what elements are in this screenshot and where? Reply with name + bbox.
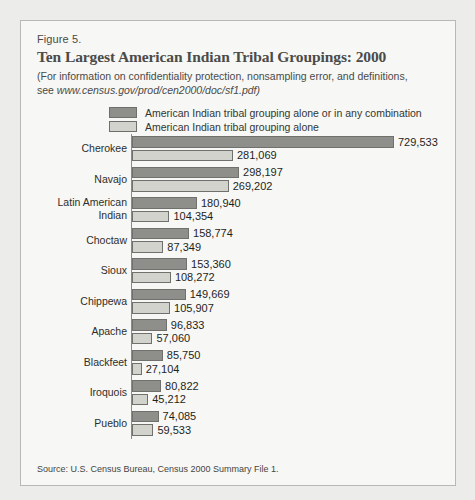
chart-row: Blackfeet85,75027,104 <box>37 348 441 379</box>
row-label-navajo: Navajo <box>31 173 127 186</box>
row-label-line: Navajo <box>94 173 127 185</box>
chart-row: Chippewa149,669105,907 <box>37 287 441 318</box>
bar-group: 80,82245,212 <box>132 380 161 407</box>
row-label-apache: Apache <box>31 325 127 338</box>
bar-group: 153,360108,272 <box>132 258 187 285</box>
bar-combination[interactable]: 180,940 <box>132 197 197 209</box>
bar-group: 180,940104,354 <box>132 197 197 224</box>
bar-value-label: 105,907 <box>174 302 214 314</box>
bar-value-label: 87,349 <box>167 241 201 253</box>
bar-chart: Cherokee729,533281,069Navajo298,197269,2… <box>37 134 441 439</box>
bar-value-label: 96,833 <box>171 319 205 331</box>
chart-legend: American Indian tribal grouping alone or… <box>109 106 422 134</box>
bar-group: 298,197269,202 <box>132 167 239 194</box>
bar-alone[interactable]: 269,202 <box>132 180 229 192</box>
bar-value-label: 104,354 <box>173 210 213 222</box>
bar-combination[interactable]: 74,085 <box>132 411 159 423</box>
chart-row: Choctaw158,77487,349 <box>37 226 441 257</box>
figure-subtitle: (For information on confidentiality prot… <box>37 70 447 97</box>
chart-row: Iroquois80,82245,212 <box>37 378 441 409</box>
subtitle-see-label: see <box>37 84 54 96</box>
bar-alone[interactable]: 281,069 <box>132 150 233 162</box>
row-label-choctaw: Choctaw <box>31 234 127 247</box>
bar-value-label: 80,822 <box>165 380 199 392</box>
source-note: Source: U.S. Census Bureau, Census 2000 … <box>37 464 279 474</box>
row-label-line: Apache <box>91 325 127 337</box>
bar-value-label: 57,060 <box>156 332 190 344</box>
bar-value-label: 269,202 <box>233 180 273 192</box>
bar-value-label: 298,197 <box>243 166 283 178</box>
bar-value-label: 281,069 <box>237 149 277 161</box>
row-label-line: Pueblo <box>94 417 127 429</box>
chart-row: Pueblo74,08559,533 <box>37 409 441 440</box>
bar-group: 74,08559,533 <box>132 411 159 438</box>
row-label-line: Sioux <box>101 264 127 276</box>
row-label-cherokee: Cherokee <box>31 142 127 155</box>
row-label-line: Blackfeet <box>84 356 127 368</box>
bar-combination[interactable]: 153,360 <box>132 258 187 270</box>
subtitle-line-1: (For information on confidentiality prot… <box>37 70 408 82</box>
row-label-chippewa: Chippewa <box>31 295 127 308</box>
row-label-line: Latin American <box>58 196 127 208</box>
bar-group: 96,83357,060 <box>132 319 167 346</box>
bar-alone[interactable]: 45,212 <box>132 394 148 406</box>
bar-combination[interactable]: 158,774 <box>132 228 189 240</box>
row-label-line: Iroquois <box>90 386 127 398</box>
row-label-line: Choctaw <box>86 234 127 246</box>
legend-swatch-light <box>109 121 137 132</box>
figure-panel: Figure 5. Ten Largest American Indian Tr… <box>20 20 456 486</box>
bar-value-label: 180,940 <box>201 197 241 209</box>
figure-page: Figure 5. Ten Largest American Indian Tr… <box>0 0 475 500</box>
legend-label: American Indian tribal grouping alone <box>145 121 319 133</box>
bar-combination[interactable]: 96,833 <box>132 319 167 331</box>
figure-number: Figure 5. <box>37 33 81 45</box>
bar-value-label: 158,774 <box>193 227 233 239</box>
chart-rows: Cherokee729,533281,069Navajo298,197269,2… <box>37 134 441 439</box>
chart-row: Latin AmericanIndian180,940104,354 <box>37 195 441 226</box>
legend-label: American Indian tribal grouping alone or… <box>145 107 422 119</box>
bar-alone[interactable]: 104,354 <box>132 211 169 223</box>
bar-combination[interactable]: 729,533 <box>132 136 394 148</box>
legend-item: American Indian tribal grouping alone or… <box>109 106 422 119</box>
bar-value-label: 108,272 <box>175 271 215 283</box>
row-label-line: Chippewa <box>80 295 127 307</box>
bar-value-label: 45,212 <box>152 393 186 405</box>
bar-alone[interactable]: 108,272 <box>132 272 171 284</box>
chart-row: Navajo298,197269,202 <box>37 165 441 196</box>
bar-alone[interactable]: 105,907 <box>132 302 170 314</box>
bar-value-label: 153,360 <box>191 258 231 270</box>
figure-title: Ten Largest American Indian Tribal Group… <box>37 48 386 66</box>
row-label-latin-american-indian: Latin AmericanIndian <box>31 196 127 222</box>
bar-value-label: 85,750 <box>167 349 201 361</box>
legend-item: American Indian tribal grouping alone <box>109 120 422 133</box>
row-label-iroquois: Iroquois <box>31 386 127 399</box>
bar-value-label: 27,104 <box>146 363 180 375</box>
chart-row: Sioux153,360108,272 <box>37 256 441 287</box>
row-label-line: Indian <box>98 209 127 221</box>
bar-alone[interactable]: 87,349 <box>132 241 163 253</box>
bar-combination[interactable]: 80,822 <box>132 380 161 392</box>
bar-group: 729,533281,069 <box>132 136 394 163</box>
census-url-link[interactable]: www.census.gov/prod/cen2000/doc/sf1.pdf) <box>57 84 260 96</box>
row-label-blackfeet: Blackfeet <box>31 356 127 369</box>
bar-value-label: 74,085 <box>163 410 197 422</box>
row-label-pueblo: Pueblo <box>31 417 127 430</box>
bar-group: 149,669105,907 <box>132 289 186 316</box>
bar-combination[interactable]: 298,197 <box>132 167 239 179</box>
bar-value-label: 149,669 <box>190 288 230 300</box>
bar-alone[interactable]: 57,060 <box>132 333 152 345</box>
bar-combination[interactable]: 149,669 <box>132 289 186 301</box>
row-label-sioux: Sioux <box>31 264 127 277</box>
bar-alone[interactable]: 59,533 <box>132 424 153 436</box>
bar-combination[interactable]: 85,750 <box>132 350 163 362</box>
chart-row: Cherokee729,533281,069 <box>37 134 441 165</box>
bar-value-label: 729,533 <box>398 136 438 148</box>
chart-row: Apache96,83357,060 <box>37 317 441 348</box>
bar-group: 158,77487,349 <box>132 228 189 255</box>
row-label-line: Cherokee <box>81 142 127 154</box>
legend-swatch-dark <box>109 107 137 118</box>
bar-value-label: 59,533 <box>157 424 191 436</box>
bar-group: 85,75027,104 <box>132 350 163 377</box>
bar-alone[interactable]: 27,104 <box>132 363 142 375</box>
